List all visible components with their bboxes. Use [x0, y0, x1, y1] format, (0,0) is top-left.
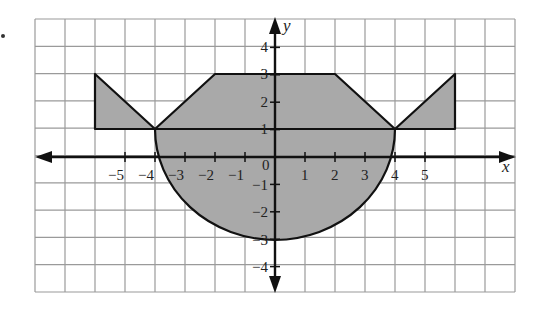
axes: [45, 26, 505, 286]
x-tick-label: 1: [301, 167, 309, 183]
x-tick-label: −3: [168, 167, 184, 183]
x-axis-label: x: [501, 157, 510, 176]
y-arrow-down-icon: [269, 276, 281, 293]
x-tick-label: −1: [228, 167, 244, 183]
y-tick-label: −3: [252, 232, 268, 248]
y-tick-label: 1: [261, 121, 269, 137]
x-tick-label: 3: [361, 167, 369, 183]
y-tick-label: 3: [261, 66, 269, 82]
y-tick-label: −4: [252, 259, 268, 275]
x-tick-label: 4: [391, 167, 399, 183]
y-tick-label: 4: [261, 39, 269, 55]
x-tick-label: −2: [198, 167, 214, 183]
y-tick-label: −2: [252, 204, 268, 220]
x-arrow-left-icon: [35, 151, 52, 163]
origin-label: 0: [262, 157, 270, 173]
y-tick-label: 2: [261, 94, 269, 110]
x-tick-label: 5: [421, 167, 429, 183]
coordinate-grid-figure: y x 0 −5 −4 −3 −2 −1 1 2 3 4 5 4 3 2 1 −…: [0, 0, 539, 315]
y-axis-label: y: [281, 16, 291, 35]
x-tick-label: −5: [108, 167, 124, 183]
y-tick-label: −1: [252, 177, 268, 193]
x-tick-label: 2: [331, 167, 339, 183]
x-tick-label: −4: [138, 167, 154, 183]
